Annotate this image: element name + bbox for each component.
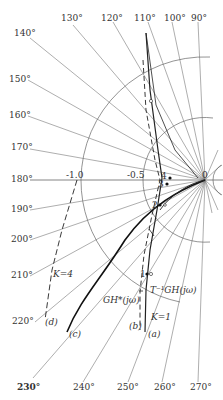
radial-label-neg05: -0.5 xyxy=(127,171,144,180)
angle-label-90: 90° xyxy=(191,14,207,23)
annotation-ghstar: GH*(jω) xyxy=(103,296,140,305)
angle-label-220: 220° xyxy=(12,317,34,326)
radial-label-neg1: -1.0 xyxy=(66,171,83,180)
angle-label-100: 100° xyxy=(164,14,186,23)
angle-label-110: 110° xyxy=(134,14,156,23)
angle-label-120: 120° xyxy=(101,14,123,23)
polar-plot-canvas xyxy=(0,0,223,400)
annotation-k4: K=4 xyxy=(53,270,73,279)
annotation-tinv: T⁻¹GH(jω) xyxy=(150,286,197,295)
angle-label-200: 200° xyxy=(11,235,33,244)
point-label-2: 2 xyxy=(152,201,158,210)
curve-c xyxy=(67,180,205,332)
curve-label-d: (d) xyxy=(45,318,58,327)
angle-label-210: 210° xyxy=(11,271,33,280)
angle-label-230: 230° xyxy=(17,383,40,392)
angle-label-250: 250° xyxy=(117,383,139,392)
angle-grid-lines xyxy=(28,22,223,382)
angle-label-150: 150° xyxy=(9,75,31,84)
angle-label-190: 190° xyxy=(11,205,33,214)
angle-label-170: 170° xyxy=(11,143,33,152)
angle-label-260: 260° xyxy=(154,383,176,392)
angle-label-130: 130° xyxy=(61,14,83,23)
angle-label-140: 140° xyxy=(14,29,36,38)
curve-label-c: (c) xyxy=(69,330,81,339)
angle-label-270: 270° xyxy=(190,383,212,392)
annotation-k1: K=1 xyxy=(151,313,171,322)
origin-label: 0 xyxy=(202,171,208,180)
angle-label-160: 160° xyxy=(9,111,31,120)
angle-label-180: 180° xyxy=(11,175,33,184)
point-label-3: 3 xyxy=(158,180,164,189)
angle-label-240: 240° xyxy=(73,383,95,392)
curve-label-b: (b) xyxy=(129,322,142,331)
point-label-1: 1 xyxy=(140,270,146,279)
curve-label-a: (a) xyxy=(148,330,160,339)
curve-d xyxy=(45,180,77,320)
